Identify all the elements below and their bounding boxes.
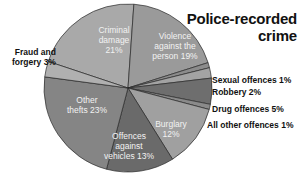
label-all-other: All other offences 1% bbox=[207, 120, 293, 130]
label-violence: Violenceagainst theperson 19% bbox=[152, 31, 197, 61]
label-burglary: Burglary12% bbox=[155, 119, 187, 139]
label-sexual: Sexual offences 1% bbox=[212, 75, 291, 85]
label-robbery: Robbery 2% bbox=[212, 87, 261, 97]
title-line-2: crime bbox=[187, 27, 297, 44]
label-drug: Drug offences 5% bbox=[212, 104, 284, 114]
label-criminal-damage: Criminaldamage21% bbox=[98, 25, 129, 55]
label-other-thefts: Otherthefts 23% bbox=[67, 95, 107, 115]
label-vehicles: Offencesagainstvehicles 13% bbox=[104, 131, 154, 161]
label-fraud: Fraud andforgery 3% bbox=[12, 47, 56, 67]
title-line-1: Police-recorded bbox=[187, 10, 297, 27]
chart-title: Police-recorded crime bbox=[187, 10, 297, 44]
